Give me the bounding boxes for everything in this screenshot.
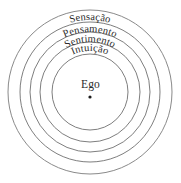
ring-label-sensacao: Sensação <box>68 11 112 25</box>
center-dot-icon <box>88 95 91 98</box>
psyche-diagram: Sensação Pensamento Sentimento Intuição … <box>0 0 181 183</box>
ring-circle-intuicao <box>40 42 140 142</box>
center-label-ego: Ego <box>0 78 181 90</box>
ring-circle-ego <box>52 54 128 130</box>
ring-label-sensacao-text: Sensação <box>68 11 112 25</box>
concentric-circles-svg: Sensação Pensamento Sentimento Intuição <box>0 0 181 183</box>
